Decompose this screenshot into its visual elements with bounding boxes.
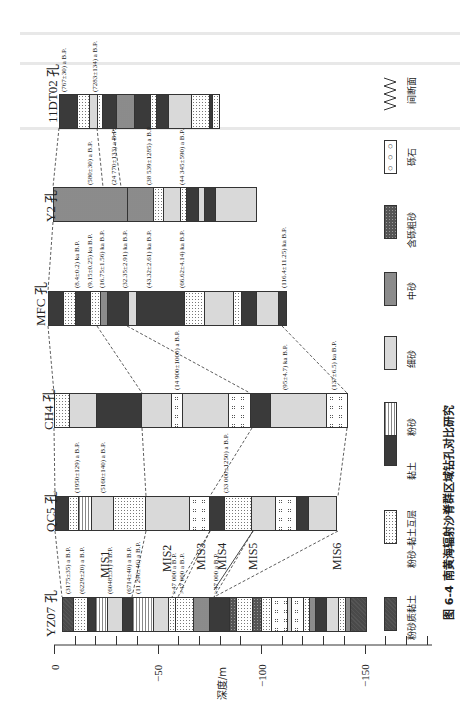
figure-caption: 图 6-4 南黄海辐射沙脊群区域钻孔对比研究: [440, 405, 456, 620]
legend-label: 间断面: [405, 77, 418, 104]
unconformity-wave-icon: [0, 0, 460, 721]
